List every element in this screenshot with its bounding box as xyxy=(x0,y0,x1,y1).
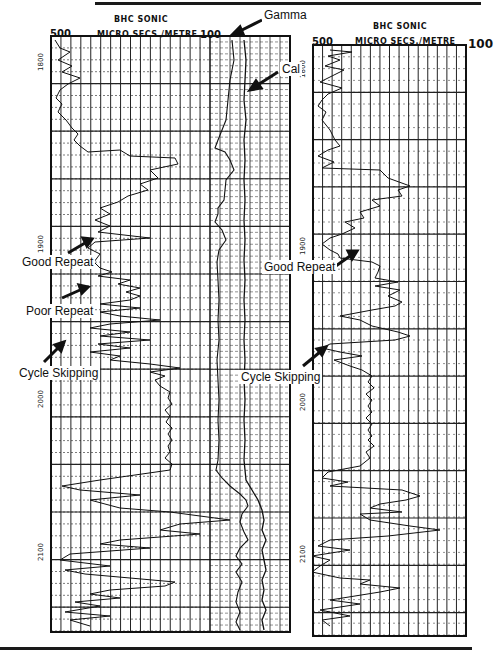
left-poor-repeat-label: Poor Repeat xyxy=(24,304,95,318)
right-cycle-skipping-label: Cycle Skipping xyxy=(239,370,322,384)
left-log-middle-track-grid xyxy=(210,36,290,632)
left-log-grid xyxy=(51,36,210,632)
right-sonic-curve xyxy=(312,50,440,626)
left-cycle-skipping-label: Cycle Skipping xyxy=(17,366,100,380)
right-good-repeat-label: Good Repeat xyxy=(262,260,337,274)
cal-label: Cal xyxy=(280,62,302,76)
gamma-label: Gamma xyxy=(262,8,309,22)
left-good-repeat-label: Good Repeat xyxy=(20,255,95,269)
well-log-plot xyxy=(0,0,499,658)
